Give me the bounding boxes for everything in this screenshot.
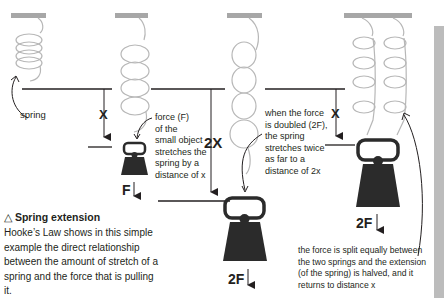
- force-2f-label-b: 2F: [356, 215, 372, 231]
- ceiling-bar: [227, 13, 262, 18]
- spring-with-small-weight: [115, 13, 152, 175]
- ceiling-bar: [115, 13, 148, 18]
- force-2f-label-a: 2F: [228, 271, 244, 287]
- small-weight: [121, 143, 148, 175]
- doubled-description: when the force is doubled (2F), the spri…: [265, 108, 337, 177]
- 2x-label: 2X: [204, 134, 222, 151]
- large-weight: [356, 140, 400, 207]
- doubled-pointer-arrow: [242, 134, 262, 190]
- x-label-3: X: [331, 106, 340, 121]
- spring-at-rest: [11, 13, 46, 118]
- ceiling-bar: [344, 13, 412, 18]
- force-f-label: F: [122, 182, 131, 198]
- ceiling-bar: [11, 13, 46, 18]
- x-label-1: X: [99, 107, 108, 122]
- split-description: the force is split equally between the t…: [298, 245, 433, 291]
- split-pointer-arrow: [404, 115, 422, 256]
- caption-body: Hooke’s Law shows in this simple example…: [4, 226, 164, 299]
- caption-title-text: Spring extension: [15, 211, 100, 223]
- caption-title: △ Spring extension: [4, 211, 100, 223]
- large-weight: [223, 198, 267, 261]
- spring-label: spring: [20, 109, 46, 121]
- page-edge-bar: [434, 26, 444, 298]
- spring-with-large-weight: [223, 13, 267, 261]
- triangle-icon: △: [4, 211, 12, 223]
